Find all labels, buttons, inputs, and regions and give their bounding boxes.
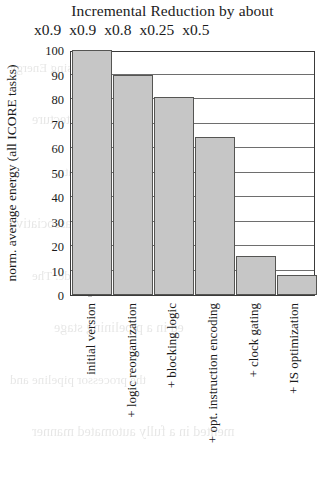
chart-title-block: Incremental Reduction by about x0.9 x0.9…: [0, 1, 329, 39]
bar: [277, 275, 317, 295]
bar-slot: [154, 52, 194, 295]
multiplier-1: x0.9: [34, 21, 61, 39]
plot-area: [70, 51, 315, 296]
y-tick-label: 100: [45, 44, 64, 59]
multiplier-2: x0.9: [69, 21, 96, 39]
multiplier-4: x0.25: [139, 21, 174, 39]
bar: [236, 256, 276, 295]
y-axis-tick-labels: 1009080706050403020100: [22, 51, 68, 296]
multiplier-3: x0.8: [104, 21, 131, 39]
x-axis-tick-labels: initial version+ logic reorganization+ b…: [70, 299, 315, 497]
bar-series: [71, 52, 314, 295]
y-tick-label: 80: [52, 93, 65, 108]
x-label-slot: + clock gating: [234, 299, 274, 497]
y-tick-label: 90: [52, 68, 65, 83]
y-tick-label: 50: [52, 166, 65, 181]
x-tick-label: initial version: [83, 303, 99, 375]
x-tick-label: + logic reorganization: [124, 303, 140, 418]
y-tick-label: 60: [52, 142, 65, 157]
x-label-slot: + IS optimization: [274, 299, 314, 497]
bar-slot: [72, 52, 112, 295]
multiplier-5: x0.5: [182, 21, 209, 39]
x-tick-label: + opt. instruction encoding: [205, 303, 221, 443]
y-axis-title-text: norm. average energy (all ICORE tasks): [4, 64, 20, 281]
x-tick-label: + IS optimization: [286, 303, 302, 394]
bar: [72, 50, 112, 295]
y-tick-label: 0: [58, 289, 64, 304]
x-label-slot: initial version: [71, 299, 111, 497]
bar-chart: Incremental Reduction by about x0.9 x0.9…: [0, 0, 329, 500]
chart-title: Incremental Reduction by about: [0, 1, 329, 20]
y-tick-label: 30: [52, 215, 65, 230]
y-tick-label: 10: [52, 264, 65, 279]
x-label-slot: + opt. instruction encoding: [193, 299, 233, 497]
x-label-slot: + blocking logic: [152, 299, 192, 497]
y-tick-label: 70: [52, 117, 65, 132]
bar-slot: [195, 52, 235, 295]
multiplier-annotations: x0.9 x0.9 x0.8 x0.25 x0.5: [0, 21, 329, 39]
x-label-slot: + logic reorganization: [112, 299, 152, 497]
y-tick-label: 40: [52, 191, 65, 206]
bar-slot: [236, 52, 276, 295]
bar-slot: [113, 52, 153, 295]
bar: [195, 137, 235, 295]
bar-slot: [277, 52, 317, 295]
x-tick-label: + clock gating: [246, 303, 262, 377]
bar: [154, 97, 194, 295]
y-tick-label: 20: [52, 240, 65, 255]
x-tick-label: + blocking logic: [164, 303, 180, 388]
bar: [113, 75, 153, 296]
y-axis-title: norm. average energy (all ICORE tasks): [2, 48, 22, 298]
